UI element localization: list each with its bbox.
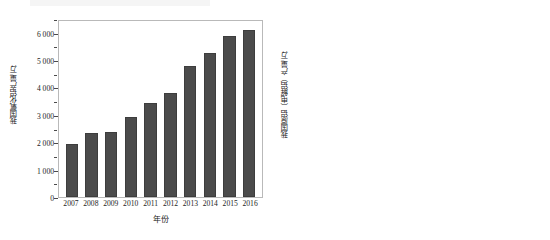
y-tick-mark-minor — [54, 102, 57, 103]
bar-slot — [220, 21, 240, 197]
bar — [144, 103, 156, 197]
plot-area-left — [58, 20, 263, 198]
scan-artifact — [30, 0, 210, 6]
bar-slot — [121, 21, 141, 197]
y-tick-label: 6 000 — [37, 29, 54, 38]
bar-slot — [200, 21, 220, 197]
x-tick-label: 2012 — [161, 199, 181, 213]
bar — [164, 93, 176, 197]
y-tick-mark-minor — [54, 47, 57, 48]
bar-series-left — [59, 21, 262, 197]
bar — [223, 36, 235, 197]
bar-slot — [161, 21, 181, 197]
y-tick-mark-minor — [54, 130, 57, 131]
y-tick-label: 5 000 — [37, 57, 54, 66]
bar — [243, 30, 255, 197]
bar — [66, 144, 78, 197]
x-tick-label: 2010 — [121, 199, 141, 213]
y-tick-label: 1 000 — [37, 166, 54, 175]
bar-slot — [62, 21, 82, 197]
x-tick-label: 2011 — [141, 199, 161, 213]
bar — [125, 117, 137, 197]
x-tick-label: 2009 — [101, 199, 121, 213]
bar — [184, 66, 196, 197]
y-tick-label: 3 000 — [37, 111, 54, 120]
x-tick-label: 2007 — [61, 199, 81, 213]
y-axis-title-right: 我国原铝（电解铝）产量/万t — [277, 0, 293, 190]
x-tick-label: 2013 — [180, 199, 200, 213]
figure-row: 我国氧化铝产量/万t 01 0002 0003 0004 0005 0006 0… — [0, 0, 550, 240]
bar — [204, 53, 216, 197]
bar — [105, 132, 117, 197]
bar-slot — [101, 21, 121, 197]
chart-panel-primary-aluminium: 我国原铝（电解铝）产量/万t 05001 0001 5002 0002 5003… — [275, 0, 550, 240]
y-tick-label: 2 000 — [37, 139, 54, 148]
x-tick-label: 2014 — [200, 199, 220, 213]
x-tick-label: 2015 — [220, 199, 240, 213]
y-tick-mark-minor — [54, 75, 57, 76]
chart-panel-alumina: 我国氧化铝产量/万t 01 0002 0003 0004 0005 0006 0… — [0, 0, 275, 240]
bar-slot — [239, 21, 259, 197]
y-tick-mark-minor — [54, 157, 57, 158]
bar-slot — [180, 21, 200, 197]
y-tick-label: 4 000 — [37, 84, 54, 93]
bar-slot — [82, 21, 102, 197]
x-tick-label: 2008 — [81, 199, 101, 213]
y-tick-mark-minor — [54, 20, 57, 21]
y-tick-mark-minor — [54, 184, 57, 185]
y-axis-tick-labels-left: 01 0002 0003 0004 0005 0006 000 — [18, 20, 54, 198]
bar — [85, 133, 97, 197]
x-axis-title-left: 年份 — [58, 213, 263, 224]
x-tick-label: 2016 — [240, 199, 260, 213]
x-axis-tick-labels-left: 2007200820092010201120122013201420152016 — [58, 199, 263, 213]
bar-slot — [141, 21, 161, 197]
